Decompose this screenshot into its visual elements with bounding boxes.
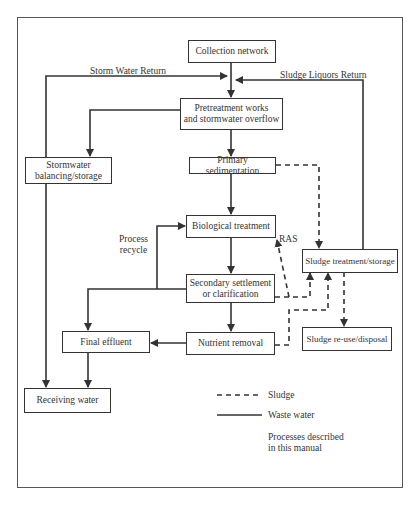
node-sludge-treatment: Sludge treatment/storage <box>302 249 398 273</box>
node-collection-network: Collection network <box>188 40 276 63</box>
node-receiving-water: Receiving water <box>24 388 111 413</box>
node-pretreatment: Pretreatment works and stormwater overfl… <box>180 98 283 130</box>
label-sludge-liquors-return: Sludge Liquors Return <box>280 70 367 81</box>
legend-waste-water: Waste water <box>268 410 314 421</box>
node-stormwater: Stormwater balancing/storage <box>25 157 112 184</box>
label-process-recycle: Process recycle <box>119 234 148 256</box>
legend-processes: Processes described in this manual <box>268 432 344 454</box>
node-biological-treatment: Biological treatment <box>186 215 276 238</box>
node-nutrient-removal: Nutrient removal <box>186 332 275 355</box>
node-secondary-settlement: Secondary settlement or clarification <box>186 274 275 303</box>
label-storm-water-return: Storm Water Return <box>90 66 166 77</box>
legend-sludge: Sludge <box>268 390 294 401</box>
node-primary-sedimentation: Primary sedimentation <box>189 157 276 174</box>
label-ras: RAS <box>279 234 297 245</box>
node-final-effluent: Final effluent <box>62 331 150 353</box>
node-sludge-reuse: Sludge re-use/disposal <box>302 327 392 351</box>
